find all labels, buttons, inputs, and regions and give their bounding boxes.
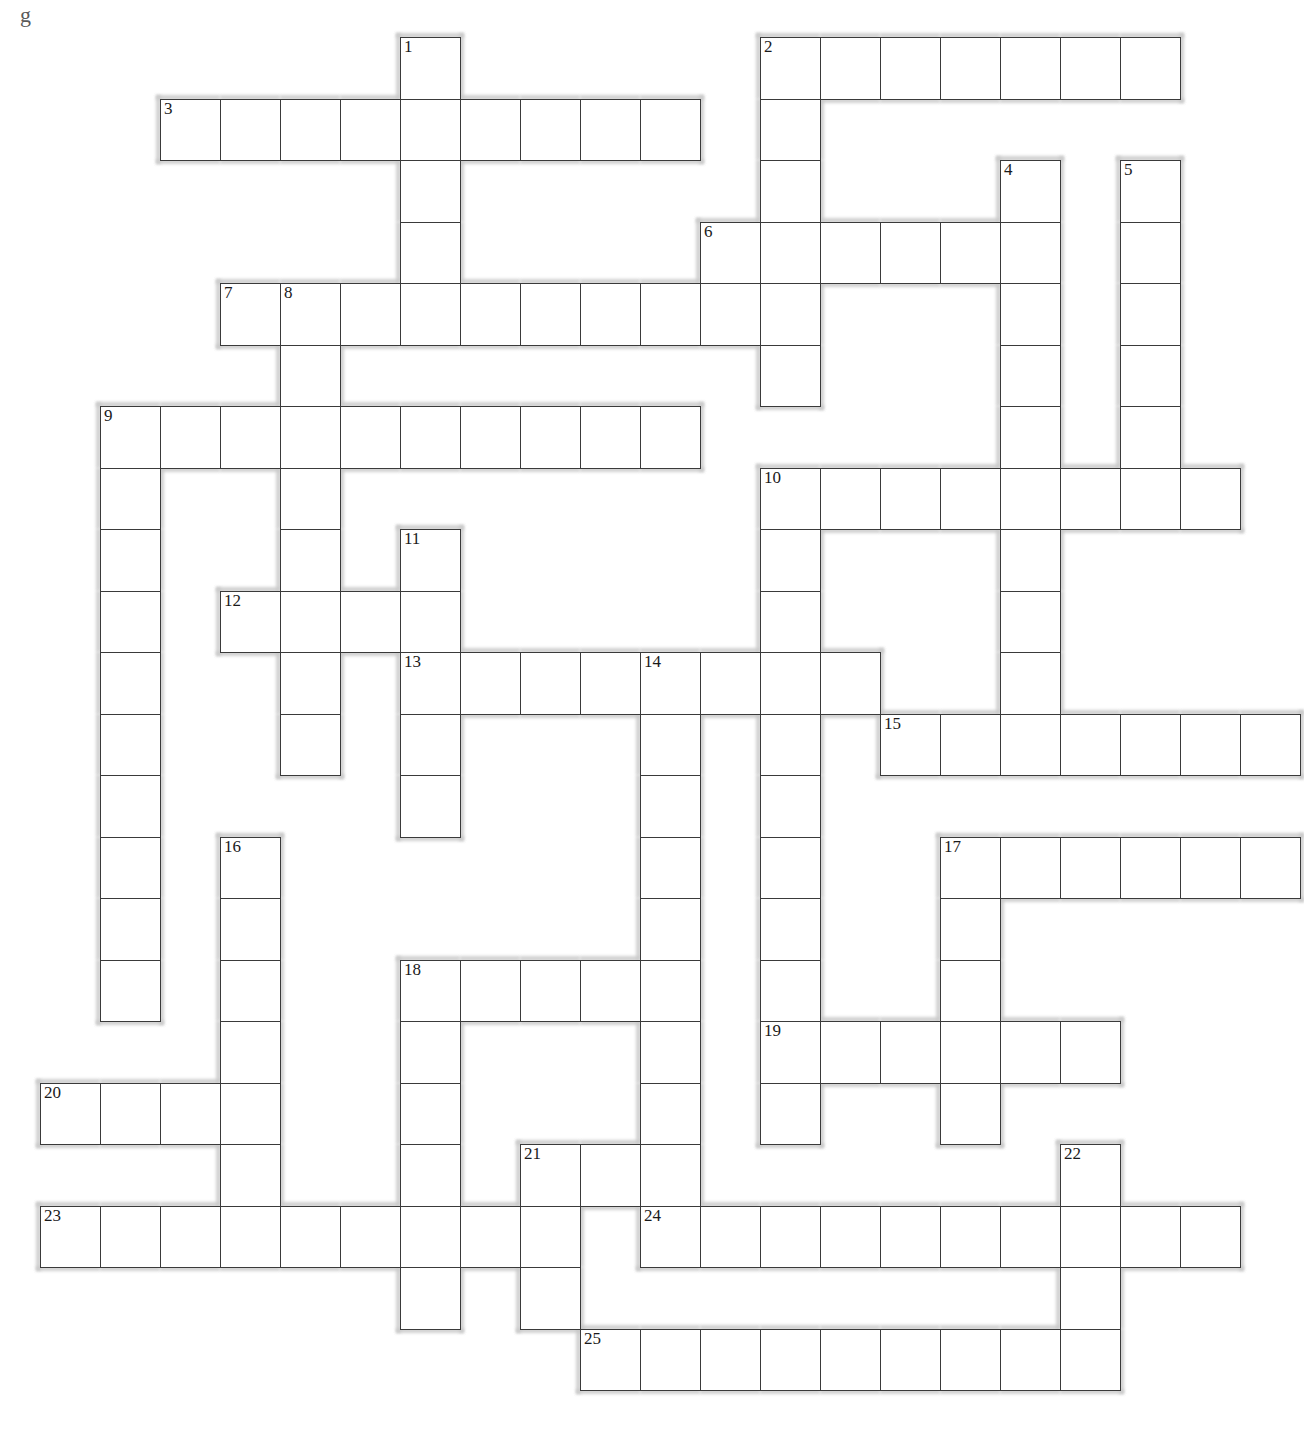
crossword-cell[interactable] xyxy=(940,714,1001,777)
crossword-cell[interactable] xyxy=(1240,714,1301,777)
crossword-cell[interactable] xyxy=(160,1083,221,1146)
crossword-cell[interactable] xyxy=(1060,1206,1121,1269)
crossword-cell[interactable] xyxy=(280,591,341,654)
crossword-cell[interactable] xyxy=(400,714,461,777)
crossword-cell[interactable] xyxy=(100,468,161,531)
crossword-cell[interactable] xyxy=(940,960,1001,1023)
crossword-cell[interactable] xyxy=(400,1267,461,1330)
crossword-cell[interactable] xyxy=(1180,837,1241,900)
crossword-cell[interactable] xyxy=(640,960,701,1023)
crossword-cell[interactable] xyxy=(280,468,341,531)
crossword-cell[interactable] xyxy=(520,1267,581,1330)
crossword-cell[interactable] xyxy=(520,283,581,346)
crossword-cell[interactable] xyxy=(460,652,521,715)
crossword-cell[interactable] xyxy=(940,468,1001,531)
crossword-cell[interactable] xyxy=(1060,1329,1121,1392)
crossword-cell[interactable] xyxy=(220,1021,281,1084)
crossword-cell[interactable] xyxy=(220,99,281,162)
crossword-cell[interactable] xyxy=(820,1329,881,1392)
crossword-cell[interactable] xyxy=(1120,714,1181,777)
crossword-cell[interactable] xyxy=(700,1329,761,1392)
crossword-cell[interactable] xyxy=(1000,283,1061,346)
crossword-cell[interactable] xyxy=(1120,37,1181,100)
crossword-cell[interactable] xyxy=(220,1144,281,1207)
crossword-cell-start-2[interactable]: 2 xyxy=(760,37,821,100)
crossword-cell[interactable] xyxy=(460,406,521,469)
crossword-cell[interactable] xyxy=(580,283,641,346)
crossword-cell[interactable] xyxy=(100,837,161,900)
crossword-cell[interactable] xyxy=(280,714,341,777)
crossword-cell[interactable] xyxy=(940,1083,1001,1146)
crossword-cell-start-4[interactable]: 4 xyxy=(1000,160,1061,223)
crossword-cell[interactable] xyxy=(1180,714,1241,777)
crossword-cell[interactable] xyxy=(940,37,1001,100)
crossword-cell[interactable] xyxy=(220,898,281,961)
crossword-cell[interactable] xyxy=(1060,837,1121,900)
crossword-cell[interactable] xyxy=(460,99,521,162)
crossword-cell[interactable] xyxy=(1000,714,1061,777)
crossword-cell[interactable] xyxy=(100,591,161,654)
crossword-cell[interactable] xyxy=(640,283,701,346)
crossword-cell[interactable] xyxy=(760,1329,821,1392)
crossword-cell[interactable] xyxy=(880,222,941,285)
crossword-cell-start-24[interactable]: 24 xyxy=(640,1206,701,1269)
crossword-cell[interactable] xyxy=(1120,1206,1181,1269)
crossword-cell[interactable] xyxy=(400,1206,461,1269)
crossword-cell[interactable] xyxy=(1120,283,1181,346)
crossword-cell[interactable] xyxy=(880,37,941,100)
crossword-cell[interactable] xyxy=(760,1206,821,1269)
crossword-cell[interactable] xyxy=(1120,222,1181,285)
crossword-cell[interactable] xyxy=(280,652,341,715)
crossword-cell[interactable] xyxy=(640,406,701,469)
crossword-cell[interactable] xyxy=(1240,837,1301,900)
crossword-cell[interactable] xyxy=(520,652,581,715)
crossword-cell-start-25[interactable]: 25 xyxy=(580,1329,641,1392)
crossword-cell[interactable] xyxy=(760,898,821,961)
crossword-cell-start-12[interactable]: 12 xyxy=(220,591,281,654)
crossword-cell[interactable] xyxy=(520,406,581,469)
crossword-cell[interactable] xyxy=(1000,837,1061,900)
crossword-cell[interactable] xyxy=(280,1206,341,1269)
crossword-cell-start-21[interactable]: 21 xyxy=(520,1144,581,1207)
crossword-cell[interactable] xyxy=(1000,1206,1061,1269)
crossword-cell-start-14[interactable]: 14 xyxy=(640,652,701,715)
crossword-cell[interactable] xyxy=(580,99,641,162)
crossword-cell-start-5[interactable]: 5 xyxy=(1120,160,1181,223)
crossword-cell[interactable] xyxy=(280,99,341,162)
crossword-cell-start-17[interactable]: 17 xyxy=(940,837,1001,900)
crossword-cell[interactable] xyxy=(820,1021,881,1084)
crossword-cell-start-6[interactable]: 6 xyxy=(700,222,761,285)
crossword-cell[interactable] xyxy=(640,714,701,777)
crossword-cell[interactable] xyxy=(1180,468,1241,531)
crossword-cell[interactable] xyxy=(1000,37,1061,100)
crossword-cell-start-9[interactable]: 9 xyxy=(100,406,161,469)
crossword-cell[interactable] xyxy=(100,529,161,592)
crossword-cell[interactable] xyxy=(760,160,821,223)
crossword-cell[interactable] xyxy=(100,898,161,961)
crossword-cell-start-11[interactable]: 11 xyxy=(400,529,461,592)
crossword-cell[interactable] xyxy=(1000,1329,1061,1392)
crossword-cell[interactable] xyxy=(760,775,821,838)
crossword-cell[interactable] xyxy=(580,406,641,469)
crossword-cell-start-16[interactable]: 16 xyxy=(220,837,281,900)
crossword-cell[interactable] xyxy=(460,960,521,1023)
crossword-cell[interactable] xyxy=(820,222,881,285)
crossword-cell[interactable] xyxy=(880,1021,941,1084)
crossword-cell[interactable] xyxy=(640,898,701,961)
crossword-cell[interactable] xyxy=(760,837,821,900)
crossword-cell[interactable] xyxy=(1000,468,1061,531)
crossword-cell-start-10[interactable]: 10 xyxy=(760,468,821,531)
crossword-cell[interactable] xyxy=(820,37,881,100)
crossword-cell[interactable] xyxy=(460,1206,521,1269)
crossword-cell[interactable] xyxy=(400,99,461,162)
crossword-cell[interactable] xyxy=(100,1083,161,1146)
crossword-cell[interactable] xyxy=(880,1329,941,1392)
crossword-cell[interactable] xyxy=(1000,591,1061,654)
crossword-cell[interactable] xyxy=(940,1021,1001,1084)
crossword-cell[interactable] xyxy=(400,406,461,469)
crossword-cell[interactable] xyxy=(160,406,221,469)
crossword-cell[interactable] xyxy=(940,1206,1001,1269)
crossword-cell[interactable] xyxy=(280,406,341,469)
crossword-cell[interactable] xyxy=(1000,406,1061,469)
crossword-cell[interactable] xyxy=(820,1206,881,1269)
